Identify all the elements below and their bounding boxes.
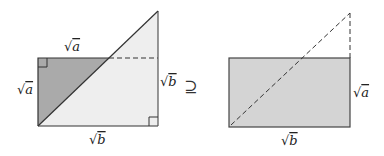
right-figure: √a √b — [229, 13, 369, 148]
label-top-sqrt-a: √a — [64, 39, 80, 54]
label-right-sqrt-a: √a — [353, 85, 369, 100]
label-bottom-sqrt-b: √b — [281, 133, 298, 148]
label-bottom-sqrt-b: √b — [89, 132, 106, 147]
superset-equal-symbol: ⊇ — [184, 77, 197, 96]
left-figure: √a √a √b √b — [17, 11, 177, 147]
label-right-sqrt-b: √b — [160, 74, 177, 89]
label-left-sqrt-a: √a — [17, 82, 33, 97]
shaded-rectangle — [229, 58, 350, 127]
diagram-canvas: √a √a √b √b ⊇ √a √b — [0, 0, 384, 156]
